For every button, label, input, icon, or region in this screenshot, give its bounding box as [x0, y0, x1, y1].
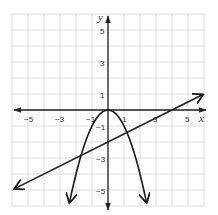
coordinate-graph: x y −5 −3 −1 1 3 5 5 3 1 −1 −3 −5: [0, 0, 218, 215]
y-axis-label: y: [97, 11, 103, 23]
x-tick-labels: −5 −3 −1 1 3 5: [24, 115, 190, 124]
y-tick-label: −5: [96, 187, 106, 196]
y-tick-label: −3: [96, 155, 106, 164]
x-tick-label: −3: [55, 115, 65, 124]
y-tick-label: 5: [100, 27, 105, 36]
x-tick-label: 5: [185, 115, 190, 124]
y-tick-label: 3: [100, 59, 105, 68]
y-tick-label: −1: [96, 123, 106, 132]
x-axis-label: x: [198, 112, 204, 124]
y-tick-label: 1: [100, 91, 105, 100]
x-tick-label: −5: [24, 115, 34, 124]
